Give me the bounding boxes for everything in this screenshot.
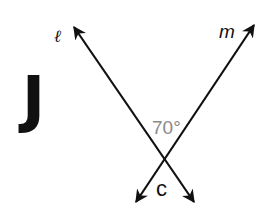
line-l-label: ℓ [54, 26, 61, 46]
angle-measure-label: 70° [152, 117, 181, 138]
angle-variable-label: c [156, 176, 167, 201]
intersecting-lines-diagram: ℓ m 70° c [0, 0, 266, 223]
line-m [136, 25, 254, 202]
line-l [74, 27, 194, 202]
line-m-label: m [219, 21, 235, 42]
